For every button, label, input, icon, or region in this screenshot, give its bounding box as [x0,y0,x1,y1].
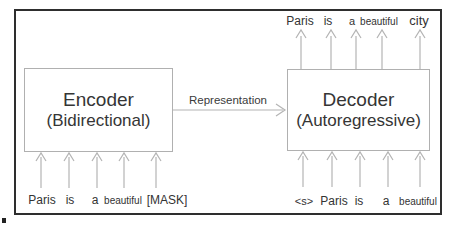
encoder-input-token: Paris [28,193,55,207]
decoder-output-token: is [324,14,333,28]
encoder-input-token: is [66,193,75,207]
decoder-output-up-arrow [296,30,425,69]
encoder-decoder-diagram: Encoder (Bidirectional) Decoder (Autoreg… [0,0,459,227]
encoder-subtitle: (Bidirectional) [47,111,151,131]
decoder-output-token: a [349,15,355,27]
decoder-output-token: Paris [286,14,313,28]
encoder-input-token: beautiful [104,195,142,206]
encoder-box: Encoder (Bidirectional) [24,68,173,152]
decoder-input-token: a [383,194,390,208]
decoder-subtitle: (Autoregressive) [296,111,421,131]
decoder-output-token: city [409,13,429,28]
decoder-input-token: is [355,194,364,208]
decoder-input-token: <s> [295,195,313,207]
encoder-input-token: [MASK] [147,193,188,207]
decoder-box: Decoder (Autoregressive) [287,69,430,151]
encoder-input-up-arrow [36,153,161,188]
decoder-input-token: Paris [320,194,347,208]
decoder-input-token: beautiful [399,196,437,207]
edge-artifact-mark [2,218,6,223]
representation-label: Representation [173,94,283,106]
encoder-title: Encoder [63,89,134,111]
decoder-input-up-arrow [298,152,425,187]
encoder-input-token: a [92,193,99,207]
decoder-output-token: beautiful [360,16,398,27]
decoder-title: Decoder [323,89,395,111]
